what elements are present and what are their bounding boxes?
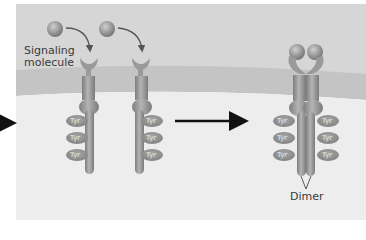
tyr-label: Tyr [146,134,156,142]
tyr-label: Tyr [146,151,156,159]
tyr-label: Tyr [322,117,332,125]
tyr-label: Tyr [70,134,80,142]
dimer-label: Dimer [290,191,324,203]
tyr-label: Tyr [70,117,80,125]
tyr-label: Tyr [322,151,332,159]
tyr-label: Tyr [277,117,287,125]
tyr-label: Tyr [70,151,80,159]
tyr-label: Tyr [277,134,287,142]
signaling-molecule-label: Signaling molecule [24,45,75,69]
signaling-molecule-icon [99,21,115,37]
tyr-label: Tyr [146,117,156,125]
signaling-molecule-icon [47,21,63,37]
tyr-label: Tyr [277,151,287,159]
tyr-label: Tyr [322,134,332,142]
